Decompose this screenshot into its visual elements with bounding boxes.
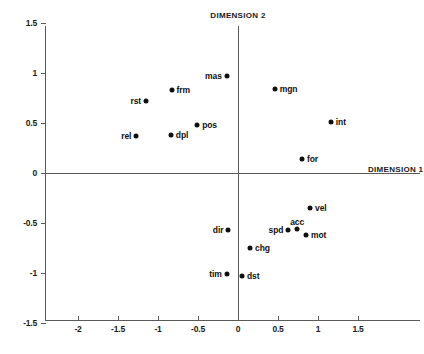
data-point-mas[interactable] (224, 74, 229, 79)
x-axis-tick (278, 316, 279, 321)
x-axis-tick (198, 316, 199, 321)
y-axis-tick-label: -1 (0, 268, 37, 278)
y-axis-tick (41, 323, 46, 324)
x-axis-tick (78, 316, 79, 321)
data-point-frm[interactable] (169, 88, 174, 93)
x-axis-tick-label: -1 (154, 324, 161, 334)
data-point-dir[interactable] (226, 228, 231, 233)
y-axis-tick (41, 73, 46, 74)
plot-frame-bottom-edge (45, 320, 420, 321)
x-axis-tick-label: -1.5 (111, 324, 125, 334)
data-point-tim[interactable] (224, 272, 229, 277)
data-point-label-dst: dst (247, 271, 259, 281)
data-point-label-frm: frm (177, 85, 190, 95)
data-point-dpl[interactable] (168, 133, 173, 138)
x-axis-tick (318, 316, 319, 321)
data-point-chg[interactable] (248, 246, 253, 251)
data-point-label-chg: chg (255, 243, 270, 253)
data-point-label-mgn: mgn (280, 84, 298, 94)
data-point-label-mas: mas (205, 71, 222, 81)
y-axis-tick-label: 1 (0, 68, 37, 78)
x-axis-tick-label: -2 (74, 324, 81, 334)
data-point-spd[interactable] (286, 228, 291, 233)
data-point-for[interactable] (300, 157, 305, 162)
data-point-int[interactable] (328, 120, 333, 125)
y-axis-tick (41, 273, 46, 274)
x-axis-tick-label: 1.5 (352, 324, 363, 334)
data-point-mot[interactable] (304, 233, 309, 238)
x-axis-tick-label: -0.5 (191, 324, 205, 334)
data-point-rel[interactable] (134, 134, 139, 139)
data-point-rst[interactable] (144, 99, 149, 104)
y-axis-tick-label: 0.5 (0, 118, 37, 128)
data-point-label-dpl: dpl (176, 130, 188, 140)
y-axis-tick-label: -1.5 (0, 318, 37, 328)
data-point-label-rel: rel (121, 131, 131, 141)
x-axis-tick (238, 316, 239, 321)
data-point-label-dir: dir (213, 225, 224, 235)
y-axis-tick-label: 1.5 (0, 18, 37, 28)
data-point-label-spd: spd (269, 225, 284, 235)
x-axis-tick (158, 316, 159, 321)
data-point-pos[interactable] (195, 123, 200, 128)
y-axis-tick (41, 123, 46, 124)
x-axis-line (45, 173, 420, 174)
data-point-acc[interactable] (295, 227, 300, 232)
x-axis-tick (358, 316, 359, 321)
x-axis-tick-label: 0.5 (272, 324, 283, 334)
data-point-label-mot: mot (311, 230, 326, 240)
data-point-label-for: for (307, 154, 318, 164)
data-point-dst[interactable] (240, 274, 245, 279)
data-point-label-pos: pos (202, 120, 217, 130)
data-point-label-vel: vel (315, 203, 327, 213)
data-point-label-tim: tim (209, 269, 221, 279)
y-axis-tick (41, 223, 46, 224)
x-axis-title: DIMENSION 1 (368, 165, 423, 174)
x-axis-tick-label: 0 (236, 324, 241, 334)
data-point-vel[interactable] (308, 206, 313, 211)
data-point-label-int: int (336, 117, 346, 127)
scatter-plot-figure: DIMENSION 2 DIMENSION 1 -2-1.5-1-0.500.5… (0, 0, 424, 354)
x-axis-tick-label: 1 (316, 324, 321, 334)
x-axis-tick (118, 316, 119, 321)
y-axis-tick-label: 0 (0, 168, 37, 178)
data-point-label-acc: acc (290, 217, 304, 227)
y-axis-title: DIMENSION 2 (210, 11, 265, 20)
y-axis-tick (41, 23, 46, 24)
data-point-mgn[interactable] (272, 87, 277, 92)
y-axis-tick (41, 173, 46, 174)
y-axis-tick-label: -0.5 (0, 218, 37, 228)
data-point-label-rst: rst (130, 96, 141, 106)
